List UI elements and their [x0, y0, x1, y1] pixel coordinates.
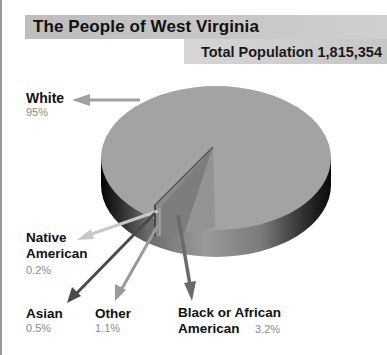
pct-black-african-american: 3.2% — [255, 323, 280, 336]
arrow-white — [72, 94, 140, 106]
label-white: White — [26, 90, 64, 106]
pie-chart — [0, 0, 387, 355]
label-other: Other — [95, 306, 131, 322]
pct-native-american: 0.2% — [26, 264, 51, 277]
pie-slice-white — [101, 86, 331, 230]
label-native-american-2: American — [26, 246, 88, 262]
label-asian: Asian — [26, 306, 63, 322]
pct-white: 95% — [26, 106, 48, 119]
label-black-african-american-2: American — [178, 321, 240, 337]
pct-asian: 0.5% — [26, 322, 51, 335]
label-black-african-american-1: Black or African — [178, 305, 281, 321]
label-native-american-1: Native — [26, 230, 67, 246]
pct-other: 1.1% — [95, 322, 120, 335]
